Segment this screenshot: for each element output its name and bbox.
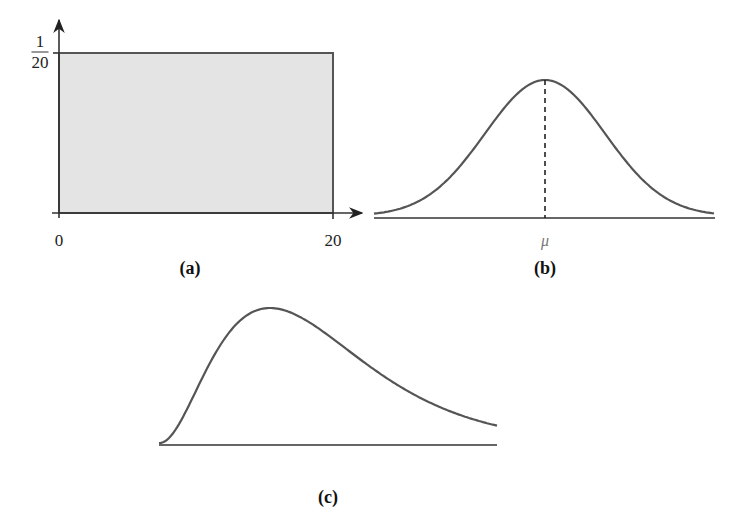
y-tick-one-twentieth: 1 20 bbox=[32, 33, 49, 72]
panel-c-skewed bbox=[159, 308, 497, 445]
panel-label-a: (a) bbox=[180, 258, 201, 279]
x-tick-20: 20 bbox=[325, 231, 342, 251]
fraction-numerator: 1 bbox=[32, 33, 49, 53]
panel-b-normal bbox=[374, 80, 715, 218]
x-tick-0: 0 bbox=[55, 231, 64, 251]
fraction-denominator: 20 bbox=[32, 53, 49, 72]
panel-a-uniform bbox=[52, 20, 362, 218]
x-tick-mu: μ bbox=[541, 232, 549, 250]
skewed-curve bbox=[159, 308, 497, 443]
uniform-area bbox=[59, 53, 333, 213]
panel-label-b: (b) bbox=[534, 258, 556, 279]
normal-curve bbox=[374, 80, 714, 214]
figure-canvas bbox=[0, 0, 736, 523]
panel-label-c: (c) bbox=[318, 487, 338, 508]
